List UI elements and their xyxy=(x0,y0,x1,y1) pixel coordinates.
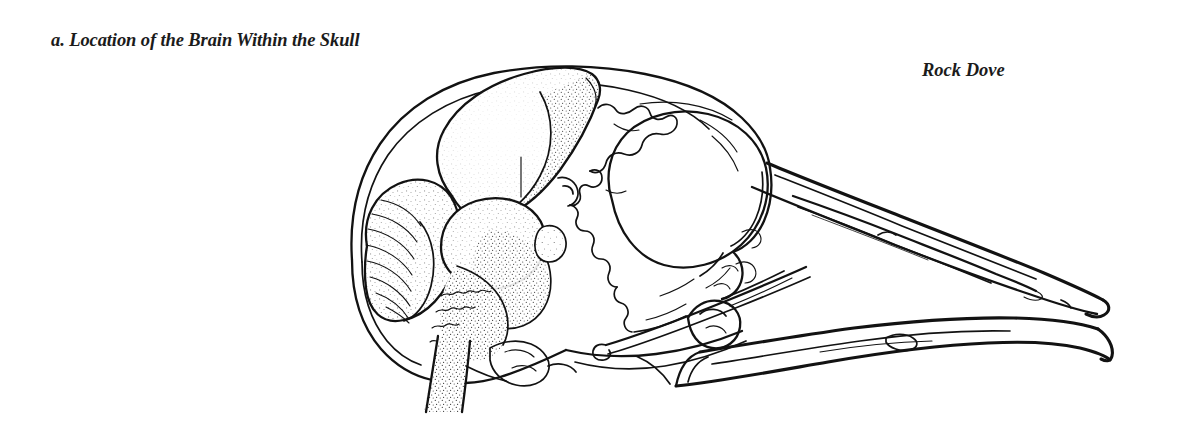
upper-mandible xyxy=(752,163,1109,317)
nasofrontal-hinge xyxy=(640,102,771,299)
suborbital-struts xyxy=(634,253,792,332)
olfactory-process xyxy=(558,177,578,206)
interorbital-septum xyxy=(570,104,677,332)
lower-mandible xyxy=(676,318,1112,386)
skull-illustration xyxy=(0,0,1199,424)
brain-nodule xyxy=(535,226,566,262)
figure-panel: a. Location of the Brain Within the Skul… xyxy=(0,0,1199,424)
orbit xyxy=(608,111,767,267)
spinal-cord xyxy=(424,336,470,412)
